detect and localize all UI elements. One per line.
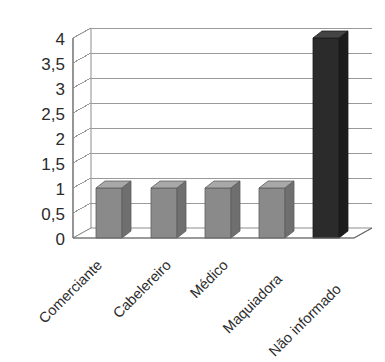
- y-tick-label: 2,5: [41, 105, 65, 124]
- bar-comerciante[interactable]: [96, 181, 131, 238]
- bar-side-face: [231, 181, 240, 238]
- column-chart-3d: 4 3,5 3 2,5 2 1,5 1 0,5 0: [0, 0, 385, 362]
- y-tick-label: 3,5: [41, 55, 65, 74]
- bar-front-face: [151, 188, 177, 238]
- y-tick-label: 4: [56, 30, 65, 49]
- y-tick-labels: 4 3,5 3 2,5 2 1,5 1 0,5 0: [41, 30, 65, 249]
- x-tick-label-maquiadora: Maquiadora: [220, 270, 286, 336]
- y-tick-label: 3: [56, 80, 65, 99]
- bar-side-face: [285, 181, 294, 238]
- bar-front-face: [205, 188, 231, 238]
- bar-maquiadora[interactable]: [259, 181, 294, 238]
- bar-side-face: [339, 31, 348, 238]
- x-tick-labels: Comerciante Cabelereiro Médico Maquiador…: [36, 257, 344, 360]
- x-tick-label-comerciante: Comerciante: [36, 257, 105, 326]
- x-tick-label-nao-informado: Não informado: [266, 281, 345, 360]
- x-tick-label-medico: Médico: [187, 257, 231, 301]
- y-tick-label: 2: [56, 130, 65, 149]
- bar-medico[interactable]: [205, 181, 240, 238]
- chart-container: 4 3,5 3 2,5 2 1,5 1 0,5 0: [0, 0, 385, 362]
- y-tick-label: 0: [56, 230, 65, 249]
- bar-front-face: [259, 188, 285, 238]
- bar-side-face: [122, 181, 131, 238]
- y-tick-label: 1: [56, 180, 65, 199]
- bar-nao-informado[interactable]: [313, 31, 348, 238]
- bar-front-face: [96, 188, 122, 238]
- bar-cabelereiro[interactable]: [151, 181, 186, 238]
- bar-side-face: [177, 181, 186, 238]
- y-tick-label: 1,5: [41, 155, 65, 174]
- y-tick-label: 0,5: [41, 205, 65, 224]
- bar-front-face: [313, 38, 339, 238]
- x-tick-label-cabelereiro: Cabelereiro: [110, 257, 174, 321]
